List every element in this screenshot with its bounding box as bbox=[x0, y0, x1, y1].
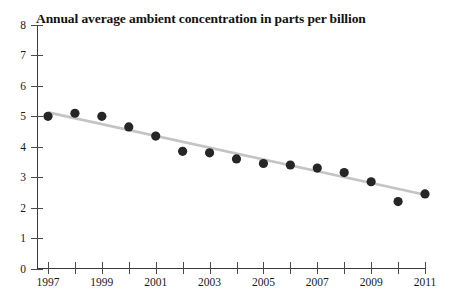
axes-group bbox=[38, 25, 427, 269]
data-point-marker bbox=[124, 122, 133, 131]
chart-container: Annual average ambient concentration in … bbox=[0, 0, 449, 298]
data-point-marker bbox=[286, 160, 295, 169]
data-point-marker bbox=[70, 109, 79, 118]
data-point-marker bbox=[340, 168, 349, 177]
y-axis-tick-label: 8 bbox=[8, 19, 26, 31]
data-point-marker bbox=[97, 112, 106, 121]
y-axis-tick-label: 3 bbox=[8, 171, 26, 183]
data-point-marker bbox=[313, 163, 322, 172]
data-point-marker bbox=[232, 154, 241, 163]
y-axis-tick-label: 0 bbox=[8, 263, 26, 275]
x-axis-tick-label: 1997 bbox=[37, 276, 60, 288]
x-axis-tick-label: 1999 bbox=[90, 276, 113, 288]
y-axis-tick-label: 4 bbox=[8, 141, 26, 153]
data-point-marker bbox=[205, 148, 214, 157]
x-axis-tick-label: 2003 bbox=[198, 276, 221, 288]
y-axis-tick-label: 2 bbox=[8, 202, 26, 214]
x-axis-tick-label: 2007 bbox=[306, 276, 329, 288]
x-axis-tick-label: 2011 bbox=[414, 276, 437, 288]
data-point-marker bbox=[367, 177, 376, 186]
y-axis-tick-label: 1 bbox=[8, 232, 26, 244]
data-point-marker bbox=[178, 147, 187, 156]
data-point-marker bbox=[420, 189, 429, 198]
data-point-marker bbox=[393, 197, 402, 206]
data-point-marker bbox=[151, 131, 160, 140]
x-axis-tick-label: 2005 bbox=[252, 276, 275, 288]
y-axis-tick-label: 7 bbox=[8, 49, 26, 61]
y-axis-tick-label: 5 bbox=[8, 110, 26, 122]
x-axis-tick-label: 2001 bbox=[144, 276, 167, 288]
plot-area bbox=[0, 0, 449, 298]
y-axis-tick-label: 6 bbox=[8, 80, 26, 92]
data-point-marker bbox=[259, 159, 268, 168]
x-axis-tick-label: 2009 bbox=[360, 276, 383, 288]
data-point-marker bbox=[43, 112, 52, 121]
